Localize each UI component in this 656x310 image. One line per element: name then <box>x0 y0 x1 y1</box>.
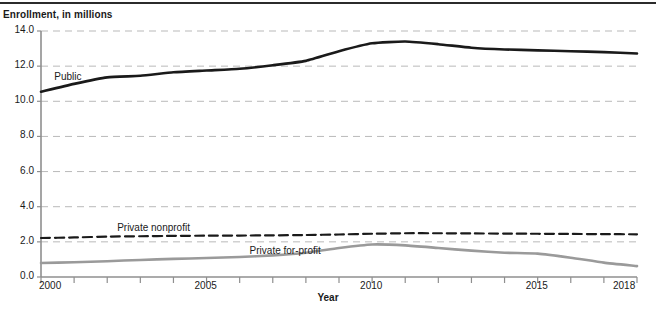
x-tick-label: 2000 <box>39 280 61 291</box>
series-label-public: Public <box>54 71 81 82</box>
series-line-private-nonprofit <box>41 233 637 238</box>
y-tick-label: 6.0 <box>0 165 34 176</box>
series-label-private-for-profit: Private for-profit <box>250 245 321 256</box>
y-tick-label: 12.0 <box>0 59 34 70</box>
x-axis-title: Year <box>0 292 656 303</box>
y-tick-label: 10.0 <box>0 94 34 105</box>
x-tick-label: 2018 <box>613 280 635 291</box>
x-tick-label: 2005 <box>195 280 217 291</box>
x-tick-label: 2015 <box>526 280 548 291</box>
enrollment-line-chart: Enrollment, in millions 0.02.04.06.08.01… <box>0 0 656 310</box>
series-line-public <box>41 42 637 92</box>
y-tick-label: 2.0 <box>0 235 34 246</box>
y-tick-label: 14.0 <box>0 24 34 35</box>
y-tick-label: 4.0 <box>0 200 34 211</box>
y-tick-label: 0.0 <box>0 270 34 281</box>
y-tick-label: 8.0 <box>0 129 34 140</box>
series-line-private-for-profit <box>41 244 637 266</box>
series-label-private-nonprofit: Private nonprofit <box>117 222 190 233</box>
x-tick-label: 2010 <box>360 280 382 291</box>
plot-area <box>0 0 656 310</box>
